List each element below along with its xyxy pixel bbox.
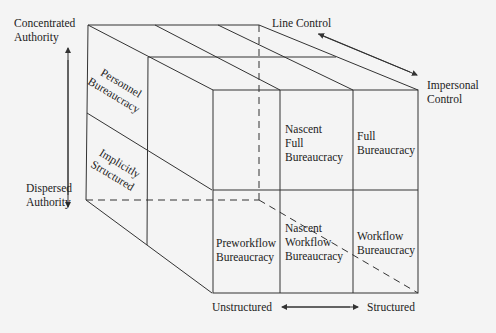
label-line: Bureaucracy — [216, 250, 276, 264]
label-line: Impersonal — [427, 78, 479, 92]
unstructured-label: Unstructured — [212, 300, 272, 314]
label-line: Preworkflow — [216, 236, 276, 250]
label-line: Bureaucracy — [357, 143, 415, 157]
label-line: Full — [285, 136, 343, 150]
label-line: Nascent — [285, 221, 343, 235]
label-line: Nascent — [285, 122, 343, 136]
label-line: Bureaucracy — [285, 150, 343, 164]
back-left-edge — [86, 25, 88, 200]
label-line: Bureaucracy — [285, 249, 343, 263]
label-line: Bureaucracy — [357, 243, 415, 257]
cell-preworkflow-bureaucracy: Preworkflow Bureaucracy — [216, 236, 276, 264]
label-line: Line Control — [272, 16, 331, 30]
line-control-label: Line Control — [272, 16, 331, 30]
cube-diagram — [0, 0, 496, 333]
cell-full-bureaucracy: Full Bureaucracy — [357, 129, 415, 157]
structured-label: Structured — [367, 300, 415, 314]
label-line: Full — [357, 129, 415, 143]
label-line: Authority — [26, 195, 72, 209]
label-line: Concentrated — [14, 16, 75, 30]
label-line: Workflow — [357, 229, 415, 243]
label-line: Control — [427, 92, 479, 106]
dispersed-authority-label: Dispersed Authority — [26, 181, 72, 209]
label-line: Dispersed — [26, 181, 72, 195]
label-line: Authority — [14, 30, 75, 44]
concentrated-authority-label: Concentrated Authority — [14, 16, 75, 44]
cell-nascent-full-bureaucracy: Nascent Full Bureaucracy — [285, 122, 343, 164]
bottom-diagonal — [86, 200, 212, 293]
cell-workflow-bureaucracy: Workflow Bureaucracy — [357, 229, 415, 257]
depth-axis-arrow-back — [319, 34, 410, 72]
impersonal-control-label: Impersonal Control — [427, 78, 479, 106]
cell-nascent-workflow-bureaucracy: Nascent Workflow Bureaucracy — [285, 221, 343, 263]
label-line: Workflow — [285, 235, 343, 249]
